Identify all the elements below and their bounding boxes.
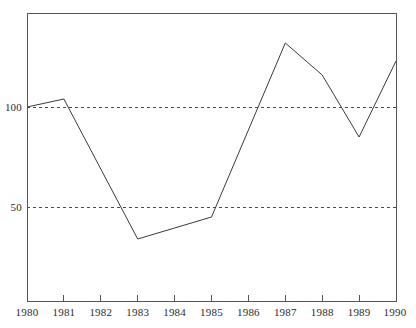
x-axis-label-1989: 1989 <box>339 306 379 318</box>
x-axis-label-1982: 1982 <box>81 306 121 318</box>
y-axis-label-100: 100 <box>0 101 22 113</box>
plot-background <box>27 13 396 301</box>
chart-container: 100 50 1980 1981 1982 1983 1984 1985 198… <box>0 0 416 328</box>
x-axis-label-1983: 1983 <box>118 306 158 318</box>
x-axis-label-1987: 1987 <box>265 306 305 318</box>
x-axis-label-1980: 1980 <box>7 306 47 318</box>
x-axis-label-1981: 1981 <box>44 306 84 318</box>
x-axis-label-1986: 1986 <box>228 306 268 318</box>
x-axis-label-1985: 1985 <box>192 306 232 318</box>
x-axis-label-1988: 1988 <box>302 306 342 318</box>
line-chart-plot <box>0 0 416 328</box>
y-axis-label-50: 50 <box>0 201 22 213</box>
x-axis-label-1990: 1990 <box>375 306 415 318</box>
x-axis-label-1984: 1984 <box>155 306 195 318</box>
